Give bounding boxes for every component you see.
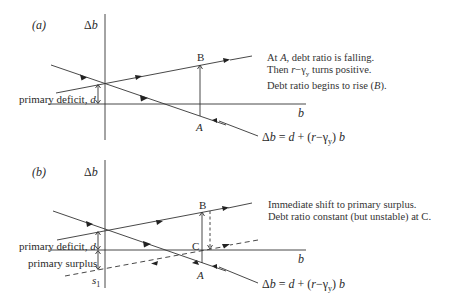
primary-deficit-text: primary deficit, <box>19 93 90 105</box>
panel-b-formula: Δb = d + (r−γy) b <box>262 277 345 293</box>
panel-a-annotation: At A, debt ratio is falling. Then r−γy t… <box>267 52 387 92</box>
panel-a-annotation-line-1: At A, debt ratio is falling. <box>267 52 387 64</box>
delta-symbol: Δ <box>84 165 92 179</box>
panel-a-point-a: A <box>196 121 203 133</box>
panel-b-point-b: B <box>199 199 206 211</box>
panel-a-y-axis-label: Δb <box>84 19 98 31</box>
panel-b-annotation-line-1: Immediate shift to primary surplus. <box>268 199 431 211</box>
panel-a-direction-arrows <box>80 58 230 123</box>
panel-b-annotation-line-2: Debt ratio constant (but unstable) at C. <box>268 211 431 223</box>
panel-a-formula: Δb = d + (r−γy) b <box>262 130 345 146</box>
panel-a-annotation-line-3: Debt ratio begins to rise (B). <box>267 80 387 92</box>
panel-a-label: (a) <box>32 19 46 31</box>
b-symbol: b <box>92 165 98 179</box>
panel-b-primary-deficit-label: primary deficit, d <box>19 240 96 252</box>
delta-symbol: Δ <box>84 18 92 32</box>
panel-b-ascending-line <box>57 208 225 240</box>
panel-b-s1-label: s1 <box>92 274 100 291</box>
panel-a-annotation-line-2: Then r−γy turns positive. <box>267 64 387 81</box>
panel-b-annotation: Immediate shift to primary surplus. Debt… <box>268 199 431 222</box>
panel-b-point-c: C <box>192 240 199 252</box>
panel-b-y-axis-label: Δb <box>84 166 98 178</box>
panel-b-primary-surplus-label: primary surplus <box>28 257 97 269</box>
panel-a-point-b: B <box>197 51 204 63</box>
b-symbol: b <box>92 18 98 32</box>
panel-a-x-axis-label: b <box>298 107 304 119</box>
panel-a-primary-deficit-label: primary deficit, d <box>19 93 96 105</box>
panel-b-direction-arrows <box>86 206 230 269</box>
panel-b-point-a: A <box>197 269 204 281</box>
d-symbol: d <box>90 93 96 105</box>
panel-b-x-axis-label: b <box>298 253 304 265</box>
panel-b-label: (b) <box>32 166 46 178</box>
